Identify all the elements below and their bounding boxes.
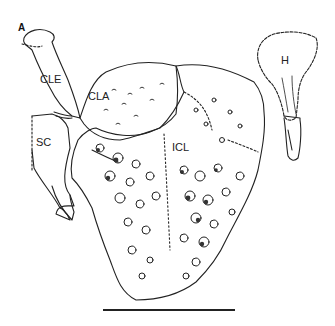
label-clavicle: CLA xyxy=(88,91,109,102)
scapulocoracoid-outline xyxy=(32,114,74,220)
label-cleithrum: CLE xyxy=(40,74,61,85)
label-scapulocoracoid: SC xyxy=(36,137,51,148)
label-interclavicle: ICL xyxy=(172,142,189,153)
label-humerus: H xyxy=(281,55,289,66)
bone-drawing xyxy=(0,0,335,326)
scale-bar xyxy=(103,309,235,311)
